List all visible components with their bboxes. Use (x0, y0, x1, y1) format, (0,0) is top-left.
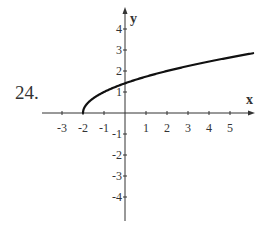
x-tick-label: 5 (227, 121, 233, 135)
y-tick-label: -1 (112, 127, 122, 141)
y-tick-label: 3 (116, 43, 122, 57)
x-tick-label: 4 (206, 121, 212, 135)
function-curve (83, 53, 253, 113)
x-tick-label: -3 (57, 121, 67, 135)
y-tick-label: 2 (116, 64, 122, 78)
x-tick-label: 2 (164, 121, 170, 135)
y-axis-arrow-icon (123, 7, 128, 14)
y-axis-label: y (130, 11, 137, 26)
x-tick-label: 3 (185, 121, 191, 135)
x-axis-arrow-icon (248, 111, 255, 116)
y-tick-label: -4 (112, 190, 122, 204)
y-tick-label: -3 (112, 169, 122, 183)
y-tick-label: -2 (112, 148, 122, 162)
x-tick-label: -2 (78, 121, 88, 135)
y-tick-label: 4 (116, 22, 122, 36)
x-axis-label: x (246, 92, 253, 107)
x-tick-label: -1 (99, 121, 109, 135)
x-tick-label: 1 (143, 121, 149, 135)
function-graph: xy-3-2-112345-4-3-2-11234 (0, 0, 266, 233)
